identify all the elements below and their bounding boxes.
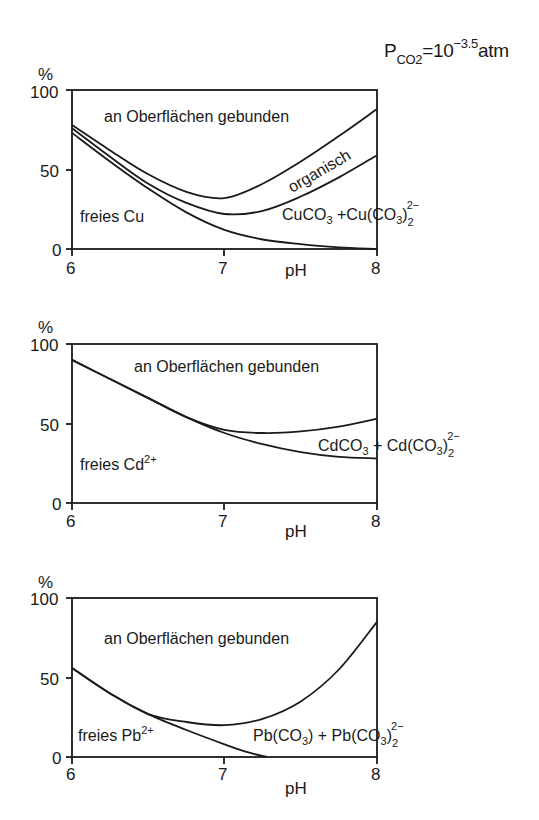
x-axis-label: pH xyxy=(285,522,307,541)
x-tick-label: 6 xyxy=(66,259,75,278)
region-pb-carbonate: Pb(CO3) + Pb(CO3)22− xyxy=(253,720,404,749)
y-tick-label: 0 xyxy=(52,749,61,768)
chart-cd: % 100 50 0 6 7 8 pH an Oberflächen gebun… xyxy=(30,318,460,541)
y-tick-label: 100 xyxy=(30,83,58,102)
charts-canvas: % 100 50 0 6 7 8 pH an Oberflächen gebun… xyxy=(0,0,539,820)
x-tick-label: 7 xyxy=(218,259,227,278)
y-tick-label: 100 xyxy=(30,590,58,609)
region-surface-bound: an Oberflächen gebunden xyxy=(134,358,319,375)
y-unit-label: % xyxy=(38,318,53,337)
region-free-cu: freies Cu xyxy=(80,208,144,225)
y-tick-label: 0 xyxy=(52,241,61,260)
x-tick-label: 7 xyxy=(218,512,227,531)
x-tick-label: 8 xyxy=(371,259,380,278)
region-cd-carbonate: CdCO3 + Cd(CO3)22− xyxy=(318,430,460,459)
x-tick-label: 6 xyxy=(66,765,75,784)
region-free-cd: freies Cd2+ xyxy=(80,453,157,473)
chart-pb: % 100 50 0 6 7 8 pH an Oberflächen gebun… xyxy=(30,573,404,798)
x-axis-label: pH xyxy=(285,779,307,798)
region-surface-bound: an Oberflächen gebunden xyxy=(104,108,289,125)
x-tick-label: 8 xyxy=(371,765,380,784)
y-tick-label: 50 xyxy=(40,670,59,689)
y-tick-label: 50 xyxy=(40,416,59,435)
x-tick-label: 6 xyxy=(66,512,75,531)
y-tick-label: 50 xyxy=(40,162,59,181)
region-surface-bound: an Oberflächen gebunden xyxy=(104,630,289,647)
y-tick-label: 0 xyxy=(52,495,61,514)
curve-free-cu xyxy=(72,133,377,249)
x-axis-label: pH xyxy=(285,261,307,280)
y-tick-label: 100 xyxy=(30,336,58,355)
region-cu-carbonate: CuCO3 +Cu(CO3)22− xyxy=(282,199,419,228)
chart-cu: % 100 50 0 6 7 8 pH an Oberflächen gebun… xyxy=(30,65,419,280)
x-tick-label: 7 xyxy=(218,765,227,784)
region-free-pb: freies Pb2+ xyxy=(78,724,154,744)
y-unit-label: % xyxy=(38,65,53,84)
x-tick-label: 8 xyxy=(371,512,380,531)
